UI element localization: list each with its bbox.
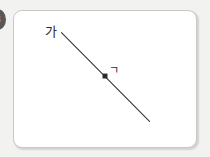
point-label-g: ㄱ (109, 65, 119, 76)
item-number-badge: 3 (0, 9, 6, 30)
point-marker-g (103, 74, 108, 79)
figure-canvas (14, 11, 196, 147)
geometry-figure-card: 가 ㄱ (13, 10, 197, 148)
screenshot-stage: 3 가 ㄱ (0, 0, 210, 157)
line-label-ga: 가 (45, 25, 57, 38)
